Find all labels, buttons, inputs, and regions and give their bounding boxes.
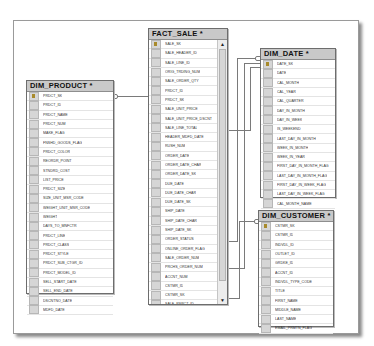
row-selector[interactable] — [151, 300, 161, 304]
column-row[interactable]: DSCNTNO_DATE — [27, 297, 113, 306]
column-row[interactable]: LAST_DAY_IN_MONTH_FLAG — [261, 172, 335, 181]
row-selector[interactable] — [151, 263, 161, 272]
row-selector[interactable] — [263, 125, 273, 134]
column-row[interactable]: TITLE — [259, 287, 333, 296]
row-selector[interactable] — [151, 198, 161, 207]
row-selector[interactable] — [261, 296, 271, 305]
column-row[interactable]: FIRST_NAME — [259, 296, 333, 305]
column-row[interactable]: SIZE_UNIT_MSR_CODE — [27, 194, 113, 203]
column-row[interactable]: WEEK_IN_YEAR — [261, 153, 335, 162]
column-row[interactable]: PRDCT_SUB_CTGR_ID — [27, 259, 113, 268]
column-row[interactable]: PRDCT_SK — [27, 92, 113, 101]
column-row[interactable]: FIRST_DAY_IN_MONTH_FLAG — [261, 162, 335, 171]
column-row[interactable]: DAY_IN_WEEK — [261, 116, 335, 125]
scroll-down-arrow-icon[interactable]: ▼ — [218, 296, 227, 304]
row-selector[interactable] — [263, 181, 273, 190]
row-selector[interactable] — [29, 287, 39, 296]
row-selector[interactable] — [151, 49, 161, 58]
row-selector[interactable] — [263, 106, 273, 115]
column-row[interactable]: DAY_IN_MONTH — [261, 106, 335, 115]
column-row[interactable]: SALE_ORDER_QTY — [149, 77, 218, 86]
row-selector[interactable] — [263, 88, 273, 97]
row-selector[interactable] — [151, 179, 161, 188]
row-selector[interactable] — [263, 171, 273, 180]
column-row[interactable]: SALE_UNIT_PRICE — [149, 105, 218, 114]
column-row[interactable]: SALE_RSPCT_ID — [149, 300, 218, 304]
row-selector[interactable] — [261, 287, 271, 296]
column-row[interactable]: IS_WEEKEND — [261, 125, 335, 134]
row-selector[interactable] — [151, 244, 161, 253]
primary-key-icon[interactable] — [29, 92, 39, 101]
row-selector[interactable] — [29, 157, 39, 166]
row-selector[interactable] — [151, 58, 161, 67]
column-row[interactable]: PRDCT_STYLE — [27, 250, 113, 259]
row-selector[interactable] — [263, 162, 273, 171]
column-row[interactable]: PRDCT_SIZE — [27, 185, 113, 194]
row-selector[interactable] — [261, 268, 271, 277]
column-row[interactable]: WEIGHT_UNIT_MSR_CODE — [27, 204, 113, 213]
column-row[interactable]: ACCNT_NUM — [149, 272, 218, 281]
column-row[interactable]: MDFD_DATE — [27, 306, 113, 315]
row-selector[interactable] — [29, 305, 39, 314]
row-selector[interactable] — [261, 324, 271, 333]
column-row[interactable]: DATE_SK — [261, 60, 335, 69]
column-row[interactable]: REORDR_POINT — [27, 157, 113, 166]
table-title[interactable]: DIM_CUSTOMER * — [259, 211, 333, 222]
scroll-up-arrow-icon[interactable]: ▲ — [218, 40, 227, 48]
row-selector[interactable] — [263, 115, 273, 124]
row-selector[interactable] — [151, 68, 161, 77]
row-selector[interactable] — [29, 296, 39, 305]
table-title[interactable]: DIM_DATE * — [261, 49, 335, 60]
row-selector[interactable] — [261, 250, 271, 259]
column-row[interactable]: CSTMR_ID — [149, 282, 218, 291]
row-selector[interactable] — [151, 95, 161, 104]
column-row[interactable]: WEIGHT — [27, 213, 113, 222]
column-row[interactable]: FNSHD_GOODS_FLAG — [27, 138, 113, 147]
row-selector[interactable] — [29, 222, 39, 231]
column-row[interactable]: SELL_START_DATE — [27, 278, 113, 287]
column-row[interactable]: PRDCT_ID — [27, 101, 113, 110]
column-row[interactable]: DUE_DATE — [149, 179, 218, 188]
column-row[interactable]: SELL_END_DATE — [27, 287, 113, 296]
row-selector[interactable] — [29, 185, 39, 194]
row-selector[interactable] — [29, 203, 39, 212]
column-row[interactable]: LAST_DAY_IN_WEEK_FLAG — [261, 190, 335, 199]
column-row[interactable]: CAL_YEAR — [261, 88, 335, 97]
row-selector[interactable] — [151, 161, 161, 170]
table-fact-sale[interactable]: FACT_SALE * SALE_SKSALE_HEADER_IDSALE_LI… — [148, 28, 228, 305]
column-row[interactable]: CAL_MONTH — [261, 79, 335, 88]
column-row[interactable]: ORDER_DATE_CHAR — [149, 161, 218, 170]
column-row[interactable]: LAST_NAME — [259, 315, 333, 324]
column-row[interactable]: INDVDL_TYPE_CODE — [259, 278, 333, 287]
column-row[interactable]: SALE_ORDER_NUM — [149, 254, 218, 263]
column-row[interactable]: CSTMR_ID — [259, 231, 333, 240]
column-row[interactable]: LAST_DAY_IN_MONTH — [261, 134, 335, 143]
column-row[interactable]: MIDDLE_NAME — [259, 306, 333, 315]
column-row[interactable]: GRDKE_ID — [259, 259, 333, 268]
row-selector[interactable] — [151, 105, 161, 114]
column-row[interactable]: CAL_MONTH_NAME — [261, 199, 335, 208]
column-row[interactable]: DATE — [261, 69, 335, 78]
column-row[interactable]: PRDCT_LINE — [27, 231, 113, 240]
row-selector[interactable] — [263, 134, 273, 143]
row-selector[interactable] — [261, 305, 271, 314]
column-row[interactable]: SALE_LINE_ID — [149, 59, 218, 68]
row-selector[interactable] — [151, 226, 161, 235]
row-selector[interactable] — [151, 133, 161, 142]
row-selector[interactable] — [29, 120, 39, 129]
row-selector[interactable] — [29, 175, 39, 184]
column-row[interactable]: PRCHS_ORDER_NUM — [149, 263, 218, 272]
row-selector[interactable] — [261, 259, 271, 268]
row-selector[interactable] — [29, 138, 39, 147]
row-selector[interactable] — [151, 272, 161, 281]
row-selector[interactable] — [29, 129, 39, 138]
column-row[interactable]: LIST_PRICE — [27, 176, 113, 185]
column-row[interactable]: CSTMR_SK — [149, 291, 218, 300]
table-title[interactable]: DIM_PRODUCT * — [27, 81, 113, 92]
row-selector[interactable] — [151, 235, 161, 244]
row-selector[interactable] — [263, 78, 273, 87]
column-row[interactable]: SALE_UNIT_PRICE_DSCNT — [149, 114, 218, 123]
column-row[interactable]: PRDCT_NUM — [27, 120, 113, 129]
column-row[interactable]: PRDCT_CLASS — [27, 241, 113, 250]
row-selector[interactable] — [151, 123, 161, 132]
